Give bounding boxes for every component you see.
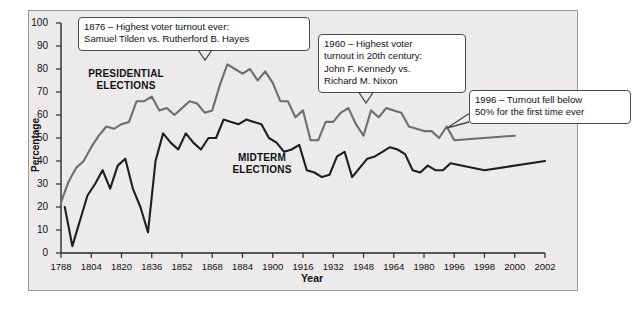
annotation-1876: 1876 – Highest voter turnout ever: Samue… [78, 17, 310, 51]
x-tick-label: 1980 [407, 261, 441, 272]
annotation-1960: 1960 – Highest voter turnout in 20th cen… [318, 34, 466, 93]
y-tick-label: 30 [22, 178, 48, 189]
x-tick-label: 1998 [468, 261, 502, 272]
x-tick-label: 2002 [528, 261, 562, 272]
x-tick-label: 2000 [498, 261, 532, 272]
x-tick-label: 1852 [165, 261, 199, 272]
x-tick-label: 1948 [347, 261, 381, 272]
x-tick-label: 1884 [226, 261, 260, 272]
y-tick-label: 100 [22, 17, 48, 28]
series-label-presidential-line1: PRESIDENTIAL [78, 68, 174, 80]
y-tick-label: 40 [22, 155, 48, 166]
y-tick-label: 60 [22, 109, 48, 120]
y-tick-label: 20 [22, 201, 48, 212]
chart-axes [56, 23, 545, 258]
series-label-presidential: PRESIDENTIAL ELECTIONS [78, 68, 174, 92]
x-tick-label: 1804 [74, 261, 108, 272]
x-axis-label: Year [0, 272, 644, 284]
y-tick-label: 10 [22, 224, 48, 235]
x-tick-label: 1868 [195, 261, 229, 272]
x-tick-label: 1932 [316, 261, 350, 272]
y-tick-label: 80 [22, 63, 48, 74]
x-tick-label: 1836 [135, 261, 169, 272]
x-tick-label: 1916 [286, 261, 320, 272]
series-label-midterm-line1: MIDTERM [222, 152, 302, 164]
x-tick-label: 1820 [105, 261, 139, 272]
x-tick-label: 1996 [437, 261, 471, 272]
y-tick-label: 50 [22, 132, 48, 143]
y-tick-label: 0 [22, 247, 48, 258]
annotation-1996: 1996 – Turnout fell below 50% for the fi… [469, 90, 631, 124]
chart-figure: Percentage 0102030405060708090100 178818… [0, 0, 644, 309]
series-label-midterm-line2: ELECTIONS [222, 164, 302, 176]
x-tick-label: 1788 [44, 261, 78, 272]
x-axis-label-text: Year [301, 272, 323, 284]
x-tick-label: 1964 [377, 261, 411, 272]
series-label-midterm: MIDTERM ELECTIONS [222, 152, 302, 176]
x-tick-label: 1900 [256, 261, 290, 272]
y-tick-label: 90 [22, 40, 48, 51]
series-label-presidential-line2: ELECTIONS [78, 80, 174, 92]
y-tick-label: 70 [22, 86, 48, 97]
